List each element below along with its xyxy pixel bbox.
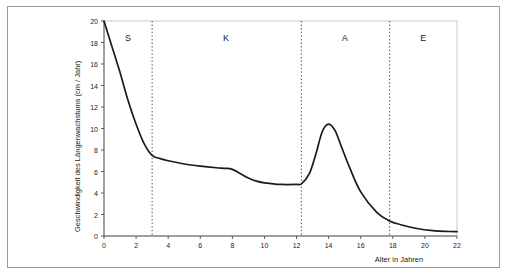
y-tick-label: 12 [80,104,98,111]
x-tick-label: 0 [102,242,106,249]
phase-label-k: K [223,33,229,43]
y-tick-label: 2 [80,211,98,218]
x-tick-label: 18 [389,242,397,249]
phase-label-e: E [420,33,426,43]
x-tick-label: 10 [261,242,269,249]
x-tick-label: 12 [293,242,301,249]
x-axis-title: Alter in Jahren [375,255,423,264]
plot-panel [104,21,457,236]
growth-velocity-chart: 024681012141618202202468101214161820SKAE… [0,0,507,275]
x-tick-label: 6 [198,242,202,249]
y-tick-label: 18 [80,39,98,46]
y-tick-label: 6 [80,168,98,175]
y-tick-label: 8 [80,147,98,154]
x-tick-label: 16 [357,242,365,249]
x-tick-label: 20 [421,242,429,249]
y-tick-label: 16 [80,61,98,68]
x-tick-label: 8 [230,242,234,249]
phase-label-s: S [125,33,131,43]
phase-label-a: A [342,33,348,43]
y-tick-label: 20 [80,18,98,25]
y-tick-label: 0 [80,233,98,240]
y-axis-title: Geschwindigkeit des Längenwachstums (cm … [73,61,82,232]
x-tick-label: 14 [325,242,333,249]
x-tick-label: 4 [166,242,170,249]
y-tick-label: 4 [80,190,98,197]
x-tick-label: 2 [134,242,138,249]
y-tick-label: 14 [80,82,98,89]
y-tick-label: 10 [80,125,98,132]
x-tick-label: 22 [453,242,461,249]
